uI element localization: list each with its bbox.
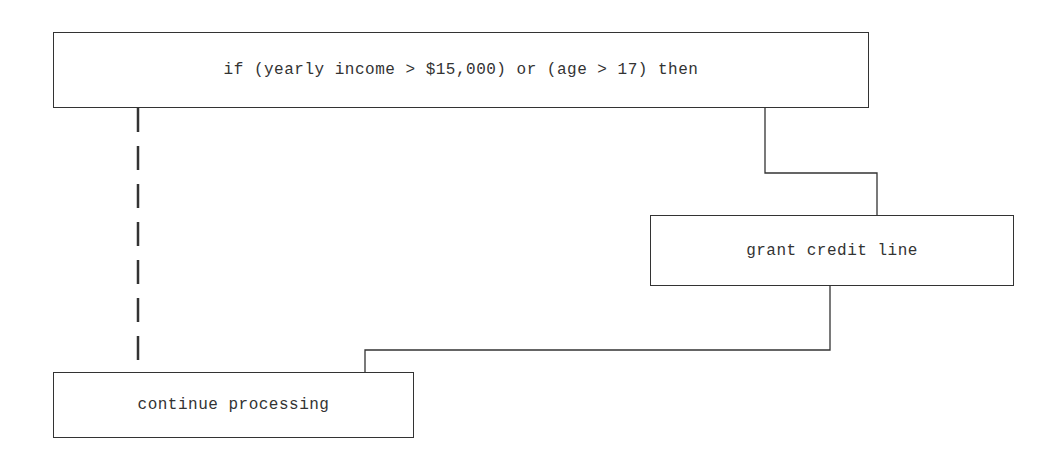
condition-node: if (yearly income > $15,000) or (age > 1…	[53, 32, 869, 108]
continue-processing-node: continue processing	[53, 372, 414, 438]
grant-credit-label: grant credit line	[746, 242, 918, 260]
edge-condition-to-grant	[765, 108, 877, 215]
continue-processing-label: continue processing	[138, 396, 330, 414]
edge-grant-to-continue	[365, 286, 830, 372]
condition-label: if (yearly income > $15,000) or (age > 1…	[224, 61, 699, 79]
grant-credit-node: grant credit line	[650, 215, 1014, 286]
